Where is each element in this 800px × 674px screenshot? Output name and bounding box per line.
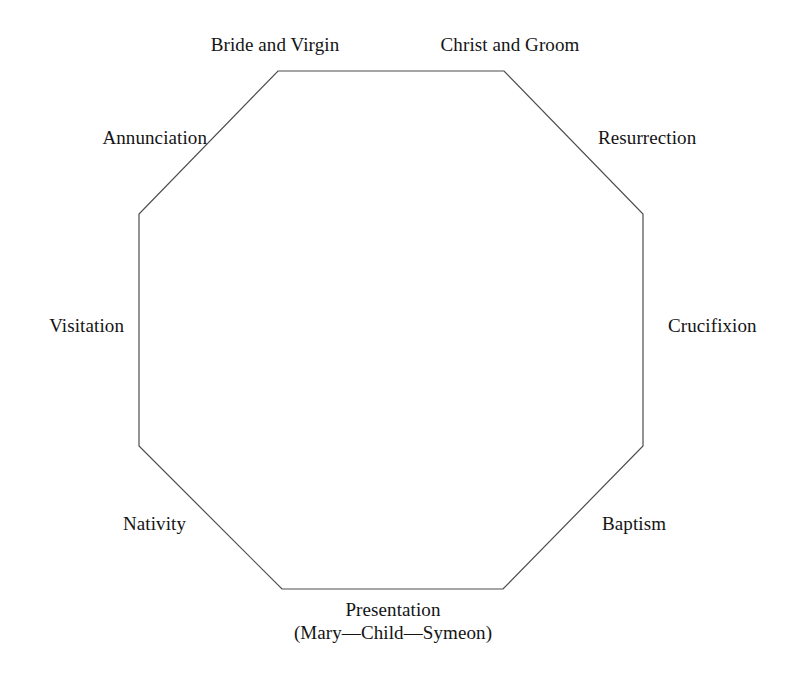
node-label-crucifixion: Crucifixion xyxy=(668,314,757,337)
node-label-text: Nativity xyxy=(123,512,186,535)
diagram-canvas: Bride and Virgin Christ and Groom Annunc… xyxy=(0,0,800,674)
node-label-text: Christ and Groom xyxy=(441,33,580,56)
node-label-presentation: Presentation (Mary—Child—Symeon) xyxy=(294,598,492,644)
octagon-outline xyxy=(139,71,643,589)
node-label-nativity: Nativity xyxy=(123,512,186,535)
node-label-text: Visitation xyxy=(49,314,124,337)
node-label-text: Baptism xyxy=(602,512,666,535)
node-label-visitation: Visitation xyxy=(49,314,124,337)
node-label-baptism: Baptism xyxy=(602,512,666,535)
node-label-christ-and-groom: Christ and Groom xyxy=(441,33,580,56)
node-sublabel-text: (Mary—Child—Symeon) xyxy=(294,621,492,644)
node-label-text: Crucifixion xyxy=(668,314,757,337)
node-label-text: Presentation xyxy=(294,598,492,621)
node-label-text: Annunciation xyxy=(102,126,207,149)
node-label-annunciation: Annunciation xyxy=(102,126,207,149)
node-label-text: Bride and Virgin xyxy=(211,33,340,56)
node-label-resurrection: Resurrection xyxy=(598,126,696,149)
node-label-text: Resurrection xyxy=(598,126,696,149)
node-label-bride-and-virgin: Bride and Virgin xyxy=(211,33,340,56)
